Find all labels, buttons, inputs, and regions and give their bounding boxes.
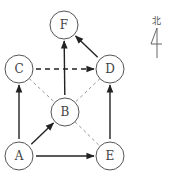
edge-b-e <box>75 122 100 146</box>
edge-d-b <box>75 79 100 103</box>
node-label: A <box>14 149 24 163</box>
north-arrow-icon <box>151 28 162 58</box>
edge-c-b <box>29 79 55 103</box>
node-label: D <box>105 62 115 76</box>
node-f: F <box>50 11 78 39</box>
node-b: B <box>51 98 79 126</box>
node-c: C <box>5 55 33 83</box>
node-a: A <box>5 142 33 170</box>
node-label: E <box>106 149 115 163</box>
node-e: E <box>96 142 124 170</box>
edges-group <box>19 36 110 156</box>
node-label: C <box>14 62 23 76</box>
graph-diagram: FCDBAE <box>0 0 172 178</box>
node-label: B <box>61 105 70 119</box>
edge-b-f <box>64 41 65 95</box>
edge-a-b <box>31 123 53 144</box>
node-d: D <box>96 55 124 83</box>
edge-d-f <box>76 36 98 57</box>
node-label: F <box>60 18 68 32</box>
north-label: 北 <box>152 14 161 27</box>
